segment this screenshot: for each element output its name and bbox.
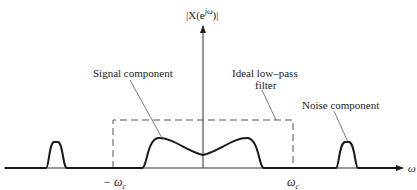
y-label-prefix: |X(e [186, 9, 205, 21]
spectrum-diagram: |X(ejω)| ω − ωc ωc Signal component Idea… [0, 0, 417, 190]
y-label-suffix: )| [213, 9, 219, 21]
y-axis-label: |X(ejω)| [186, 6, 218, 21]
pos-cutoff-label: ωc [287, 176, 299, 190]
noise-component-label: Noise component [302, 99, 379, 111]
noise-leader [334, 111, 348, 142]
neg-cutoff-label: − ωc [103, 176, 126, 190]
signal-component-label: Signal component [93, 67, 173, 79]
pos-cutoff-sub: c [295, 182, 299, 190]
filter-leader [262, 90, 276, 120]
y-label-sup: jω [205, 7, 213, 16]
neg-cutoff-sub: c [123, 182, 127, 190]
filter-label-line1: Ideal low–pass [232, 67, 298, 79]
diagram-graphics [0, 0, 417, 190]
x-axis-label: ω [408, 162, 416, 174]
filter-label-line2: filter [255, 79, 276, 91]
neg-cutoff-text: − ω [103, 175, 123, 189]
signal-leader [130, 80, 162, 138]
